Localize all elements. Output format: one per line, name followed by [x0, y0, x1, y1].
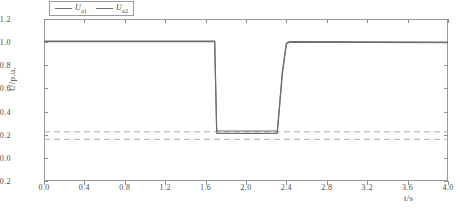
y-tick-label: 0.0 — [0, 153, 11, 162]
voltage-dip-chart: U/p.u. t/s -0.20.00.20.40.60.81.01.20.00… — [0, 0, 460, 211]
legend: Ua1 Ua2 — [49, 1, 134, 16]
legend-label-ua1: Ua1 — [75, 4, 87, 14]
y-tick-label: 0.6 — [0, 84, 11, 93]
y-tick-label: 0.2 — [0, 130, 11, 139]
x-tick-mark — [246, 181, 247, 185]
series-line — [44, 41, 448, 131]
x-tick-mark — [165, 181, 166, 185]
y-tick-label: 0.4 — [0, 107, 11, 116]
legend-swatch-ua2 — [96, 8, 113, 9]
x-tick-mark — [327, 181, 328, 185]
y-axis-title: U/p.u. — [7, 49, 17, 109]
x-tick-mark — [206, 181, 207, 185]
legend-item-ua2: Ua2 — [96, 4, 128, 14]
plot-area — [44, 19, 448, 181]
x-tick-mark — [44, 181, 45, 185]
legend-label-ua2: Ua2 — [116, 4, 128, 14]
x-axis-title: t/s — [404, 193, 413, 203]
legend-item-ua1: Ua1 — [55, 4, 87, 14]
x-tick-mark — [125, 181, 126, 185]
x-tick-mark — [448, 181, 449, 185]
x-tick-mark — [408, 181, 409, 185]
y-tick-label: 0.8 — [0, 61, 11, 70]
y-tick-label: -0.2 — [0, 177, 11, 186]
legend-swatch-ua1 — [55, 8, 72, 9]
x-tick-mark — [448, 19, 449, 23]
x-tick-mark — [367, 181, 368, 185]
y-tick-label: 1.2 — [0, 15, 11, 24]
x-tick-mark — [84, 181, 85, 185]
series-line — [44, 42, 448, 134]
x-tick-mark — [286, 181, 287, 185]
series-curves — [44, 41, 448, 133]
y-tick-label: 1.0 — [0, 38, 11, 47]
